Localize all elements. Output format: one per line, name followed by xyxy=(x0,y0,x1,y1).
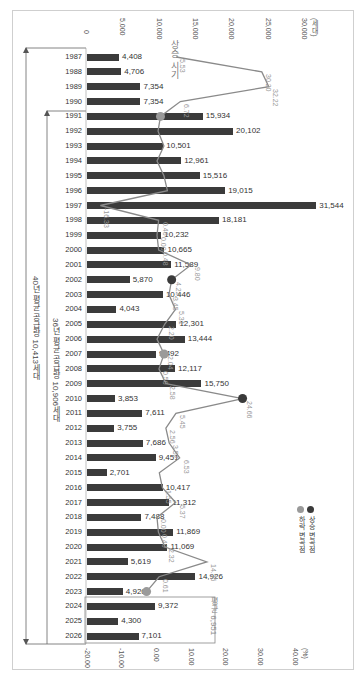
change-rate-label: 5.53 xyxy=(179,59,186,73)
change-rate-label: 2.04 xyxy=(167,356,174,370)
change-rate-label: 24.66 xyxy=(246,401,253,419)
falling-inflection-marker xyxy=(156,112,165,121)
change-rate-label: 0.00 xyxy=(160,237,167,251)
change-rate-label: 0.48 xyxy=(162,252,169,266)
legend-falling: 하락 변곡점 xyxy=(296,516,306,553)
change-rate-label: 1.55 xyxy=(165,490,172,504)
falling-inflection-marker xyxy=(142,587,151,596)
change-rate-label: 2.20 xyxy=(168,326,175,340)
change-rate-label: 5.31 xyxy=(178,311,185,325)
change-rate-label: 0.46 xyxy=(162,222,169,236)
legend-rising: 상승 변곡점 xyxy=(306,516,316,553)
change-rate-label: 0.61 xyxy=(162,579,169,593)
change-rate-label: 5.37 xyxy=(179,505,186,519)
change-rate-label: 9.80 xyxy=(194,267,201,281)
change-rate-label: 5.45 xyxy=(179,415,186,429)
change-rate-label: 0.00 xyxy=(160,519,167,533)
change-rate-label: 3.52 xyxy=(172,445,179,459)
change-rate-label: 2.58 xyxy=(169,386,176,400)
change-rate-label: 6.53 xyxy=(183,460,190,474)
change-rate-label: 6.72 xyxy=(183,104,190,118)
change-rate-label: 14.35 xyxy=(210,564,217,582)
change-rate-label: 30.20 xyxy=(265,74,272,92)
change-rate-label: 0.56 xyxy=(162,371,169,385)
change-rate-label: 0.40 xyxy=(161,534,168,548)
change-rate-label: 32.22 xyxy=(272,89,279,107)
falling-marker-icon xyxy=(297,506,304,513)
change-rate-label: -16.33 xyxy=(103,208,110,228)
rising-marker-icon xyxy=(307,506,314,513)
change-rate-label: 2.32 xyxy=(168,549,175,563)
change-rate-line xyxy=(0,0,361,680)
change-rate-label: 4.22 xyxy=(175,282,182,296)
change-rate-label: 2.56 xyxy=(169,430,176,444)
change-rate-label: 3.45 xyxy=(172,297,179,311)
